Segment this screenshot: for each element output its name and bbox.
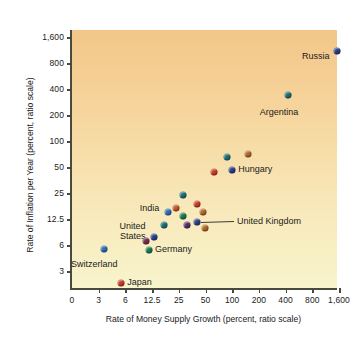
leader-line-united-kingdom (201, 221, 234, 223)
point-label-hungary: Hungary (238, 164, 272, 174)
data-point[interactable] (172, 204, 179, 211)
y-axis-tick (67, 115, 72, 117)
y-axis-tick (67, 167, 72, 169)
x-axis-tick-label: 200 (252, 295, 266, 305)
y-axis-tick (67, 219, 72, 221)
y-axis-tick-label: 25 (54, 188, 64, 198)
data-point[interactable] (244, 150, 251, 157)
data-point-hungary[interactable] (229, 166, 236, 173)
x-axis-title: Rate of Money Supply Growth (percent, ra… (70, 314, 337, 324)
y-axis-tick (67, 193, 72, 195)
x-axis-tick-label: 6 (123, 295, 128, 305)
y-axis-tick-label: 50 (54, 162, 64, 172)
data-point-united-states[interactable] (150, 234, 157, 241)
point-label-germany: Germany (155, 244, 192, 254)
data-point[interactable] (193, 200, 200, 207)
point-label-switzerland: Switzerland (71, 259, 118, 269)
x-axis-tick-label: 100 (225, 295, 239, 305)
y-axis-tick-label: 3 (59, 266, 64, 276)
x-axis-tick (99, 288, 101, 293)
y-axis-tick-label: 12.5 (47, 214, 64, 224)
point-label-united-states: States (120, 231, 146, 241)
x-axis-tick-label: 0 (70, 295, 75, 305)
point-label-japan: Japan (127, 277, 152, 287)
data-point[interactable] (160, 222, 167, 229)
chart-figure: 3612.525501002004008001,60003612.5255010… (0, 0, 350, 339)
y-axis-tick-label: 800 (50, 58, 64, 68)
x-axis-tick (339, 288, 341, 293)
x-axis-tick-label: 1,600 (328, 295, 350, 305)
x-axis-tick-label: 25 (174, 295, 184, 305)
y-axis-tick (67, 63, 72, 65)
y-axis-tick-label: 1,600 (42, 32, 64, 42)
y-axis-tick-label: 100 (50, 136, 64, 146)
y-axis-tick (67, 89, 72, 91)
x-axis-tick (312, 288, 314, 293)
data-point-japan[interactable] (118, 279, 125, 286)
x-axis-tick (286, 288, 288, 293)
x-axis-tick (206, 288, 208, 293)
data-point-united-kingdom[interactable] (193, 219, 200, 226)
data-point-switzerland[interactable] (100, 246, 107, 253)
data-point-india[interactable] (165, 209, 172, 216)
x-axis-tick (232, 288, 234, 293)
data-point[interactable] (201, 225, 208, 232)
x-axis-tick-label: 12.5 (144, 295, 161, 305)
x-axis-tick-label: 3 (96, 295, 101, 305)
x-axis-tick-label: 50 (201, 295, 211, 305)
data-point-argentina[interactable] (285, 92, 292, 99)
point-label-india: India (140, 203, 160, 213)
data-point[interactable] (180, 191, 187, 198)
data-point-germany[interactable] (146, 246, 153, 253)
y-axis-tick (67, 141, 72, 143)
data-point[interactable] (210, 169, 217, 176)
y-axis-tick-label: 400 (50, 84, 64, 94)
point-label-united-states: United (120, 221, 146, 231)
x-axis-tick (259, 288, 261, 293)
y-axis-tick (67, 37, 72, 39)
y-axis-title: Rate of Inflation per Year (percent, rat… (25, 40, 35, 290)
point-label-argentina: Argentina (260, 107, 299, 117)
x-axis-tick (152, 288, 154, 293)
point-label-russia: Russia (302, 51, 330, 61)
x-axis-tick-label: 400 (278, 295, 292, 305)
y-axis-tick-label: 6 (59, 240, 64, 250)
data-point[interactable] (184, 222, 191, 229)
x-axis-tick-label: 800 (305, 295, 319, 305)
y-axis-tick-label: 200 (50, 110, 64, 120)
data-point[interactable] (224, 154, 231, 161)
plot-area: 3612.525501002004008001,60003612.5255010… (70, 30, 337, 290)
y-axis-tick (67, 245, 72, 247)
data-point-russia[interactable] (333, 48, 340, 55)
point-label-united-kingdom: United Kingdom (237, 216, 301, 226)
data-point[interactable] (200, 209, 207, 216)
x-axis-tick (125, 288, 127, 293)
x-axis-tick (179, 288, 181, 293)
data-point[interactable] (142, 238, 149, 245)
data-point[interactable] (180, 213, 187, 220)
y-axis-tick (67, 271, 72, 273)
